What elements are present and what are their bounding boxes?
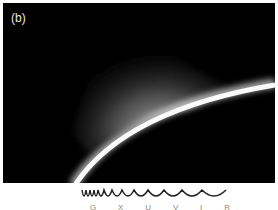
plume-illustration — [3, 3, 275, 183]
panel-label: (b) — [11, 11, 26, 25]
tick: I — [200, 204, 202, 210]
moon-plume-image: (b) — [3, 3, 275, 183]
tick: G — [90, 204, 96, 210]
spectrum-labels: G X U V I R — [90, 204, 230, 210]
tick: V — [173, 204, 178, 210]
chirp-wave-icon — [80, 186, 230, 204]
tick: X — [118, 204, 123, 210]
tick: R — [224, 204, 230, 210]
tick: U — [145, 204, 151, 210]
